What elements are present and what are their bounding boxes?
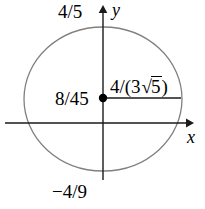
semi-axis-label: 4/(3√5) [110, 76, 168, 96]
square-root-icon: √5 [141, 76, 162, 96]
y-axis-arrowhead [99, 5, 108, 13]
center-point-marker [99, 94, 107, 102]
bottom-intercept-label: −4/9 [52, 182, 87, 201]
semi-axis-label-prefix: 4/(3 [110, 76, 141, 97]
center-value-label: 8/45 [55, 89, 89, 108]
top-intercept-label: 4/5 [58, 2, 82, 21]
ellipse-figure: 4/5 y 4/(3√5) 8/45 −4/9 x [0, 0, 205, 209]
semi-axis-label-suffix: ) [162, 76, 168, 97]
y-axis-label: y [112, 1, 120, 19]
radicand: 5 [151, 76, 162, 96]
x-axis-label: x [187, 128, 195, 146]
figure-canvas [0, 0, 205, 209]
